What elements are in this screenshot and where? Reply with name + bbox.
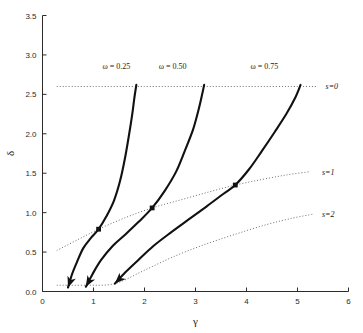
delta-gamma-phase-plot: 0.00.51.01.52.02.53.03.50123456γδ s=0s=1…: [0, 0, 363, 333]
x-tick-label: 1: [91, 297, 96, 306]
chart-container: 0.00.51.01.52.02.53.03.50123456γδ s=0s=1…: [0, 0, 363, 333]
y-tick-label: 3.0: [25, 51, 37, 60]
level-curve-label-s-0: s=0: [326, 82, 339, 91]
y-tick-label: 2.0: [25, 130, 37, 139]
intersection-marker-2: [233, 183, 238, 188]
omega-curve-1: [86, 85, 204, 287]
y-tick-label: 0.0: [25, 288, 37, 297]
level-curve-s-2: [57, 214, 313, 285]
curve-arrowhead-1: [82, 275, 95, 289]
y-tick-label: 2.5: [25, 90, 37, 99]
x-tick-label: 4: [244, 297, 249, 306]
level-curve-s-1: [57, 172, 310, 251]
omega-curve-label-2: ω = 0.75: [250, 62, 278, 71]
x-tick-label: 5: [295, 297, 300, 306]
x-tick-label: 2: [142, 297, 147, 306]
omega-curves-group: [64, 85, 301, 289]
omega-curve-label-0: ω = 0.25: [103, 62, 131, 71]
intersection-marker-0: [96, 227, 101, 232]
level-curve-label-s-2: s=2: [322, 210, 335, 219]
omega-curve-2: [115, 85, 301, 284]
y-tick-label: 0.5: [25, 248, 37, 257]
level-curves-group: [57, 86, 318, 285]
x-tick-label: 6: [346, 297, 351, 306]
intersection-marker-1: [150, 206, 155, 211]
y-tick-label: 1.0: [25, 209, 37, 218]
x-tick-label: 3: [193, 297, 198, 306]
omega-curve-label-1: ω = 0.50: [159, 62, 187, 71]
x-axis-title: γ: [192, 315, 198, 327]
x-tick-label: 0: [40, 297, 45, 306]
y-tick-label: 3.5: [25, 12, 37, 21]
level-curve-label-s-1: s=1: [322, 168, 335, 177]
y-axis-title: δ: [4, 151, 16, 156]
y-tick-label: 1.5: [25, 169, 37, 178]
